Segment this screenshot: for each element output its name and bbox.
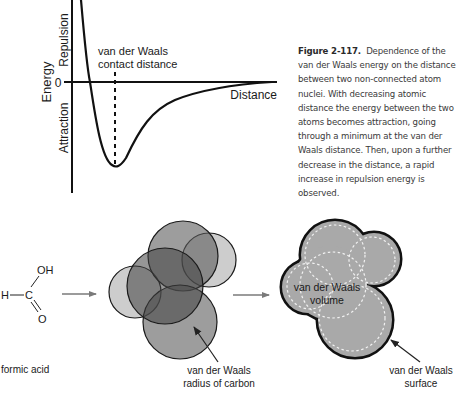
- surface-label-line-1: van der Waals: [389, 365, 453, 376]
- annotation-line-1: van der Waals: [98, 45, 168, 57]
- energy-curve: [81, 0, 272, 167]
- annotation-line-2: contact distance: [98, 58, 178, 70]
- atom-c: C: [25, 289, 33, 301]
- zero-tick-label: 0: [55, 76, 62, 90]
- van-der-waals-surface: van der Waals volume: [281, 220, 401, 358]
- energy-chart: Energy Repulsion Attraction 0 Distance v…: [39, 0, 277, 193]
- surface-label-line-2: surface: [405, 378, 438, 389]
- atom-h: H: [1, 289, 9, 301]
- figure-caption: Figure 2-117. Dependence of the van der …: [298, 44, 457, 200]
- volume-label-line-1: van der Waals: [294, 281, 361, 293]
- radius-label-line-1: van der Waals: [187, 365, 251, 376]
- sphere-carbon: [127, 248, 203, 324]
- volume-label-line-2: volume: [310, 294, 344, 306]
- formic-acid-label: formic acid: [1, 364, 49, 375]
- repulsion-label: Repulsion: [57, 13, 71, 66]
- atom-o: O: [38, 313, 47, 325]
- bond-c-oh: [31, 276, 39, 287]
- formic-acid-structure: H C OH O formic acid: [1, 264, 54, 375]
- radius-label-line-2: radius of carbon: [183, 378, 255, 389]
- figure-number: Figure 2-117.: [298, 46, 361, 56]
- van-der-waals-spheres: [109, 221, 236, 359]
- y-axis-label: Energy: [39, 61, 54, 103]
- attraction-label: Attraction: [57, 103, 71, 154]
- atom-oh: OH: [37, 264, 54, 276]
- caption-text: Dependence of the van der Waals energy o…: [298, 46, 456, 198]
- surface-arrow-icon: [391, 340, 420, 362]
- x-axis-label: Distance: [230, 88, 277, 102]
